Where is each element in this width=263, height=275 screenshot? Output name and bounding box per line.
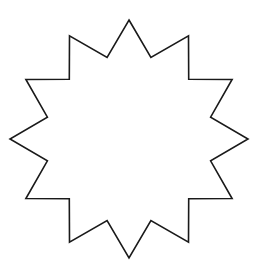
twelve-pointed-star [10, 20, 248, 258]
star-diagram [0, 0, 263, 275]
